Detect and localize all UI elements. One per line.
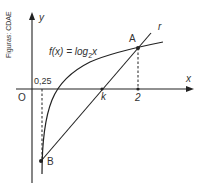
function-label: f(x) = log2x	[49, 46, 98, 59]
x-axis-label: x	[185, 73, 192, 84]
x-mark-two: 2	[134, 92, 141, 103]
log-curve	[42, 42, 163, 174]
x-mark-k: k	[101, 91, 107, 102]
point-b-label: B	[47, 156, 54, 167]
y-axis-label: y	[38, 12, 45, 23]
function-label-arg: x	[91, 46, 98, 57]
point-a	[136, 46, 140, 50]
log-diagram: Figuras: CDAE y x O 0,25 r A 2 k B f(x) …	[0, 0, 199, 191]
point-b	[39, 159, 43, 163]
figure-credit: Figuras: CDAE	[5, 11, 13, 58]
point-a-label: A	[129, 33, 136, 44]
line-r-label: r	[158, 21, 162, 32]
function-label-main: f(x) = log	[49, 46, 89, 57]
x-mark-two-dot	[136, 87, 139, 90]
origin-label: O	[18, 92, 26, 103]
x-mark-quarter: 0,25	[34, 76, 52, 86]
x-axis-arrow	[186, 86, 194, 92]
y-axis-arrow	[29, 12, 35, 20]
